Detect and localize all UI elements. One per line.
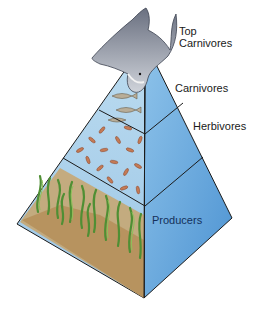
label-carnivores: Carnivores bbox=[175, 82, 228, 94]
label-producers: Producers bbox=[152, 214, 202, 226]
food-pyramid-diagram: Top Carnivores Carnivores Herbivores Pro… bbox=[0, 0, 260, 313]
label-top-line2: Carnivores bbox=[179, 37, 232, 49]
label-top-line1: Top bbox=[179, 25, 232, 37]
label-top-carnivores: Top Carnivores bbox=[179, 25, 232, 49]
label-herbivores: Herbivores bbox=[193, 120, 246, 132]
